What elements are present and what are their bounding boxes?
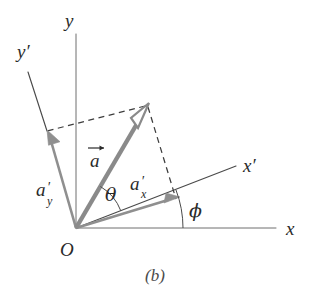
- figure-container: y y′ x x′ O a a ′ y a ′ x θ: [0, 0, 311, 302]
- component-ay-prime-mark: ′: [47, 180, 51, 195]
- component-ay-prime-label-group: a ′ y: [36, 179, 53, 208]
- vector-a-label: a: [90, 150, 100, 171]
- angle-phi-arc: [176, 190, 183, 228]
- angle-theta-label: θ: [105, 183, 117, 205]
- angle-phi-label: ϕ: [189, 199, 202, 221]
- vector-a-overbar-arrowhead: [100, 146, 105, 151]
- y-axis-label: y: [63, 10, 74, 31]
- figure-caption: (b): [145, 266, 165, 285]
- y-prime-axis-label: y′: [15, 41, 30, 62]
- component-ay-prime-label: a: [36, 179, 46, 200]
- vector-a-label-group: a: [88, 146, 104, 171]
- component-ay-prime-subscript: y: [46, 194, 53, 208]
- x-prime-axis-line: [76, 166, 236, 228]
- component-vector-ay-prime-shaft: [51, 141, 76, 228]
- y-prime-axis-line: [28, 72, 47, 131]
- component-ax-prime-label: a: [130, 173, 140, 194]
- origin-label: O: [60, 239, 74, 260]
- dashed-projection-to-x-prime: [148, 107, 176, 199]
- vector-diagram: y y′ x x′ O a a ′ y a ′ x θ: [0, 0, 311, 302]
- x-prime-axis-label: x′: [242, 155, 256, 176]
- component-ax-prime-subscript: x: [140, 187, 147, 201]
- component-ax-prime-label-group: a ′ x: [130, 173, 147, 201]
- x-axis-label: x: [285, 218, 295, 239]
- y-prime-axis-label-group: y′: [15, 41, 30, 62]
